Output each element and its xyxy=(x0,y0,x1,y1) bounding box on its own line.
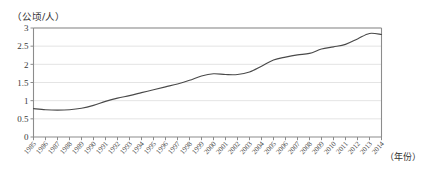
gridlines-group xyxy=(34,28,382,119)
x-axis-ticks-group: 1985198619871988198919901991199219931994… xyxy=(22,137,386,156)
y-tick-label: 0.5 xyxy=(17,114,29,124)
chart-container: （公顷/人） （年份） 00.511.522.53 19851986198719… xyxy=(0,0,431,177)
y-tick-label: 2.5 xyxy=(17,41,29,51)
data-series-line xyxy=(34,33,382,110)
y-tick-label: 2 xyxy=(24,60,29,70)
y-tick-label: 3 xyxy=(24,23,29,33)
y-axis-ticks-group: 00.511.522.53 xyxy=(17,23,33,142)
y-tick-label: 1 xyxy=(24,96,29,106)
x-tick-label: 2014 xyxy=(370,140,386,156)
line-chart-plot: 00.511.522.53 19851986198719881989199019… xyxy=(0,0,431,177)
data-series-group xyxy=(34,33,382,110)
y-tick-label: 0 xyxy=(24,132,29,142)
y-tick-label: 1.5 xyxy=(17,78,29,88)
